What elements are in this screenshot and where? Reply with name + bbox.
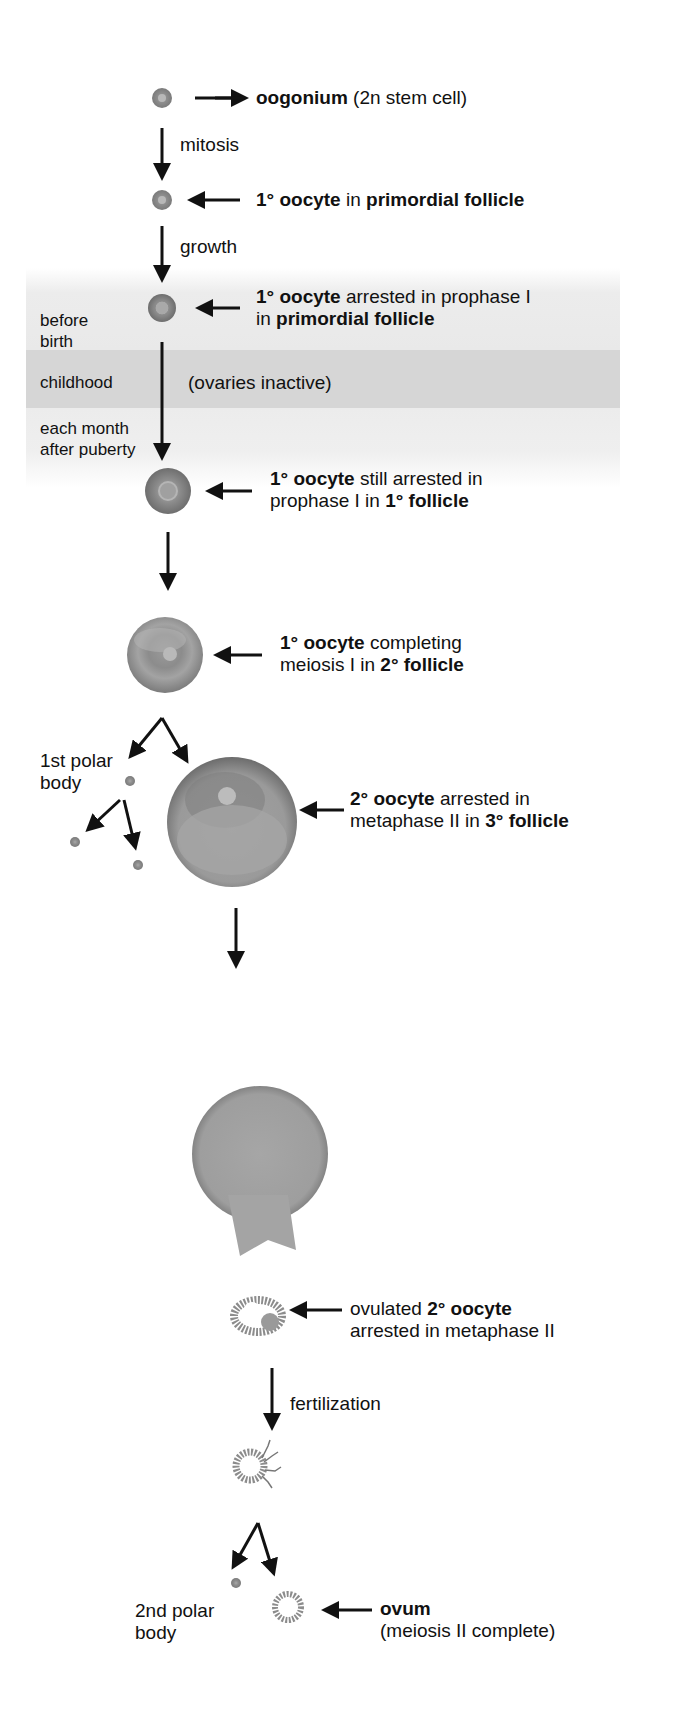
split-arrow-icon xyxy=(162,718,184,756)
label-ovum: ovum (meiosis II complete) xyxy=(380,1598,555,1642)
second-polar-body-icon xyxy=(231,1578,241,1588)
oogonium-cell-icon xyxy=(152,88,172,108)
label-primary-follicle: 1° oocyte still arrested in prophase I i… xyxy=(270,468,482,512)
primary-follicle-cell-icon xyxy=(145,468,191,514)
secondary-follicle-cell-icon xyxy=(127,617,203,693)
split-arrow-icon xyxy=(258,1523,272,1568)
first-polar-body-icon xyxy=(125,776,135,786)
label-arrested-oocyte: 1° oocyte arrested in prophase I in prim… xyxy=(256,286,531,330)
label-oogonium: oogonium (2n stem cell) xyxy=(256,87,467,109)
label-ovulated-oocyte: ovulated 2° oocyte arrested in metaphase… xyxy=(350,1298,555,1342)
split-arrow-icon xyxy=(134,718,162,752)
timeline-before-birth: before birth xyxy=(40,310,88,352)
polar-body-icon xyxy=(133,860,143,870)
timeline-each-month: each month after puberty xyxy=(40,418,135,460)
label-secondary-follicle: 1° oocyte completing meiosis I in 2° fol… xyxy=(280,632,464,676)
split-arrow-icon xyxy=(236,1523,258,1562)
fertilized-oocyte-icon xyxy=(236,1440,281,1488)
label-second-polar-body: 2nd polar body xyxy=(135,1600,214,1644)
process-fertilization: fertilization xyxy=(290,1393,381,1415)
ovulated-oocyte-icon xyxy=(234,1300,282,1332)
tertiary-follicle-cell-icon xyxy=(167,757,297,887)
split-arrow-icon xyxy=(124,800,134,842)
label-primordial-oocyte: 1° oocyte in primordial follicle xyxy=(256,189,524,211)
rupturing-follicle-icon xyxy=(192,1086,328,1256)
ovum-icon xyxy=(275,1594,301,1620)
primordial-follicle-cell-icon xyxy=(152,190,172,210)
timeline-childhood: childhood xyxy=(40,372,113,393)
split-arrow-icon xyxy=(92,800,120,826)
note-ovaries-inactive: (ovaries inactive) xyxy=(188,372,332,394)
label-tertiary-follicle: 2° oocyte arrested in metaphase II in 3°… xyxy=(350,788,569,832)
process-growth: growth xyxy=(180,236,237,258)
arrested-oocyte-cell-icon xyxy=(148,294,176,322)
process-mitosis: mitosis xyxy=(180,134,239,156)
diagram-graphics xyxy=(0,0,699,1727)
label-first-polar-body: 1st polar body xyxy=(40,750,113,794)
polar-body-icon xyxy=(70,837,80,847)
